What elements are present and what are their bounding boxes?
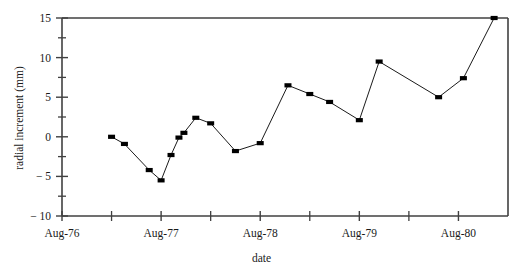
svg-text:Aug-78: Aug-78 — [243, 227, 278, 240]
y-axis-tick-labels: 151050− 5− 10 — [30, 12, 51, 222]
x-axis-tick-labels: Aug-76Aug-77Aug-78Aug-79Aug-80 — [44, 227, 476, 240]
line-chart-plot: 151050− 5− 10 Aug-76Aug-77Aug-78Aug-79Au… — [0, 0, 523, 275]
svg-text:− 10: − 10 — [30, 210, 51, 222]
svg-text:0: 0 — [45, 131, 51, 143]
svg-text:Aug-77: Aug-77 — [144, 227, 179, 240]
plot-frame — [62, 18, 508, 216]
svg-text:15: 15 — [40, 12, 52, 24]
chart-figure: radial increment (mm) date 151050− 5− 10… — [0, 0, 523, 275]
svg-text:Aug-76: Aug-76 — [44, 227, 79, 240]
svg-text:− 5: − 5 — [36, 170, 51, 182]
svg-text:Aug-80: Aug-80 — [441, 227, 476, 240]
data-series-markers — [108, 16, 498, 183]
svg-text:10: 10 — [40, 52, 52, 64]
svg-text:Aug-79: Aug-79 — [342, 227, 377, 240]
svg-text:5: 5 — [45, 91, 51, 103]
